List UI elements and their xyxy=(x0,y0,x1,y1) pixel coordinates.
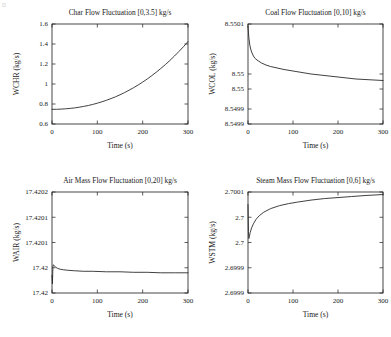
svg-text:17.4202: 17.4202 xyxy=(25,188,48,196)
chart-wstm: Steam Mass Flow Fluctuation [0,6] kg/s01… xyxy=(196,168,391,337)
svg-text:WSTM (kg/s): WSTM (kg/s) xyxy=(208,221,217,264)
svg-text:WCOL (kg/s): WCOL (kg/s) xyxy=(208,53,217,95)
svg-text:2.7: 2.7 xyxy=(235,239,244,247)
svg-text:8.5499: 8.5499 xyxy=(225,105,245,113)
svg-text:2.6999: 2.6999 xyxy=(225,289,245,297)
svg-text:Coal Flow Fluctuation [0,10] k: Coal Flow Fluctuation [0,10] kg/s xyxy=(265,8,366,17)
svg-text:8.5499: 8.5499 xyxy=(225,120,245,128)
svg-text:100: 100 xyxy=(92,297,103,305)
chart-wcol: Coal Flow Fluctuation [0,10] kg/s0100200… xyxy=(196,0,391,168)
svg-text:Time (s): Time (s) xyxy=(303,141,329,150)
chart-wair: Air Mass Flow Fluctuation [0,20] kg/s010… xyxy=(0,168,196,337)
svg-text:8.55: 8.55 xyxy=(232,85,245,93)
svg-text:17.4201: 17.4201 xyxy=(25,214,48,222)
svg-text:1: 1 xyxy=(45,80,49,88)
svg-text:0: 0 xyxy=(50,128,54,136)
panel-bottom-right: Steam Mass Flow Fluctuation [0,6] kg/s01… xyxy=(196,168,391,337)
svg-text:0: 0 xyxy=(246,128,250,136)
panel-top-left: ¤ Char Flow Fluctuation [0,3.5] kg/s0100… xyxy=(0,0,196,168)
svg-text:8.5501: 8.5501 xyxy=(225,20,245,28)
svg-text:0: 0 xyxy=(50,297,54,305)
svg-text:Air Mass Flow Fluctuation [0,2: Air Mass Flow Fluctuation [0,20] kg/s xyxy=(63,176,177,185)
svg-text:WCHR (kg/s): WCHR (kg/s) xyxy=(12,52,21,95)
svg-text:200: 200 xyxy=(137,128,148,136)
svg-text:2.7001: 2.7001 xyxy=(225,188,245,196)
corner-artifact: ¤ xyxy=(2,1,14,10)
chart-wchr: Char Flow Fluctuation [0,3.5] kg/s010020… xyxy=(0,0,196,168)
svg-text:200: 200 xyxy=(137,297,148,305)
svg-text:300: 300 xyxy=(378,128,389,136)
svg-text:100: 100 xyxy=(288,128,299,136)
svg-text:200: 200 xyxy=(333,297,344,305)
svg-text:2.6999: 2.6999 xyxy=(225,264,245,272)
svg-text:300: 300 xyxy=(378,297,389,305)
svg-text:100: 100 xyxy=(288,297,299,305)
svg-text:Steam Mass Flow Fluctuation [0: Steam Mass Flow Fluctuation [0,6] kg/s xyxy=(256,176,375,185)
svg-text:1.6: 1.6 xyxy=(39,20,48,28)
svg-text:300: 300 xyxy=(183,297,194,305)
svg-text:0: 0 xyxy=(246,297,250,305)
svg-text:200: 200 xyxy=(333,128,344,136)
svg-text:0.8: 0.8 xyxy=(39,100,48,108)
svg-text:8.55: 8.55 xyxy=(232,70,245,78)
svg-text:17.42: 17.42 xyxy=(32,289,48,297)
svg-text:1.2: 1.2 xyxy=(39,60,48,68)
panel-top-right: Coal Flow Fluctuation [0,10] kg/s0100200… xyxy=(196,0,391,168)
svg-text:2.7: 2.7 xyxy=(235,214,244,222)
svg-text:0.6: 0.6 xyxy=(39,120,48,128)
svg-text:WAIR (kg/s): WAIR (kg/s) xyxy=(12,223,21,262)
svg-text:Time (s): Time (s) xyxy=(107,141,133,150)
panel-bottom-left: Air Mass Flow Fluctuation [0,20] kg/s010… xyxy=(0,168,196,337)
svg-text:1.4: 1.4 xyxy=(39,40,48,48)
svg-text:100: 100 xyxy=(92,128,103,136)
svg-text:300: 300 xyxy=(183,128,194,136)
svg-text:Char Flow Fluctuation [0,3.5]: Char Flow Fluctuation [0,3.5] kg/s xyxy=(69,8,172,17)
svg-text:Time (s): Time (s) xyxy=(107,310,133,319)
svg-text:Time (s): Time (s) xyxy=(303,310,329,319)
svg-text:17.4201: 17.4201 xyxy=(25,239,48,247)
figure-grid: ¤ Char Flow Fluctuation [0,3.5] kg/s0100… xyxy=(0,0,391,337)
svg-text:17.42: 17.42 xyxy=(32,264,48,272)
